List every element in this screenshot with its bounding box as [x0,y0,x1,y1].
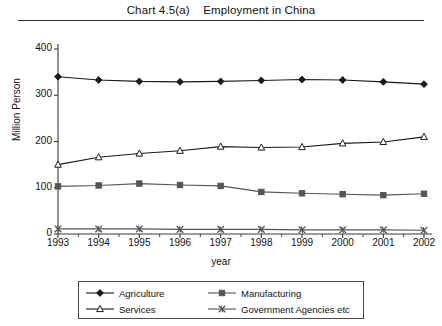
x-tick-label: 2001 [360,237,406,248]
legend-label: Agriculture [119,288,164,299]
legend-label: Services [119,304,155,315]
title-divider [18,20,424,21]
x-axis-tick-labels: 1993199419951996199719981999200020012002 [58,237,424,253]
series-agriculture [55,73,428,87]
legend-marker-open-triangle-icon [85,303,115,315]
legend-item-manufacturing[interactable]: Manufacturing [207,287,367,299]
series-manufacturing [55,181,426,198]
chart-title-bar: Chart 4.5(a) Employment in China [0,0,442,22]
x-tick-label: 1994 [76,237,122,248]
page-title: Chart 4.5(a) Employment in China [127,4,316,16]
x-tick-label: 1993 [35,237,81,248]
legend-item-services[interactable]: Services [85,303,207,315]
x-tick-label: 2002 [401,237,442,248]
legend-item-agriculture[interactable]: Agriculture [85,287,207,299]
x-tick-label: 1998 [238,237,284,248]
series-government-agencies-etc [55,226,428,234]
legend-item-government-agencies-etc[interactable]: Government Agencies etc [207,303,367,315]
x-tick-label: 2000 [320,237,366,248]
plot-area: Million Person [0,26,442,241]
chart-legend: AgricultureManufacturingServicesGovernme… [78,281,364,319]
legend-label: Government Agencies etc [241,304,350,315]
legend-label: Manufacturing [241,288,301,299]
x-tick-label: 1999 [279,237,325,248]
chart-figure: Chart 4.5(a) Employment in China 0100200… [0,0,442,326]
legend-marker-x-cross-icon [207,303,237,315]
axis-lines [58,44,432,234]
x-tick-label: 1997 [198,237,244,248]
chart-canvas [0,26,442,241]
x-axis-label: year [0,256,442,267]
x-tick-label: 1995 [116,237,162,248]
legend-marker-filled-diamond-icon [85,287,115,299]
legend-marker-filled-square-icon [207,287,237,299]
series-services [55,133,428,167]
x-tick-label: 1996 [157,237,203,248]
